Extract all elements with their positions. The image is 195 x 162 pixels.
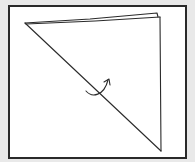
top-fold-edge-inner: [26, 17, 160, 24]
folded-triangle-drawing: [0, 0, 195, 162]
curved-arrow-icon: [86, 80, 108, 95]
diagonal-edge: [25, 23, 161, 151]
right-edge: [160, 17, 161, 151]
